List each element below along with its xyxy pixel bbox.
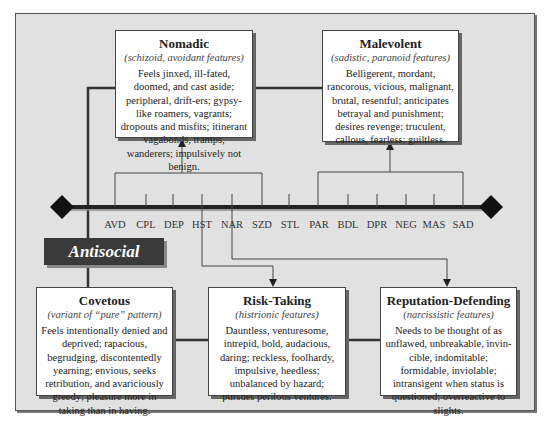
box-title: Malevolent [327,36,454,51]
risk-taking-box: Risk-Taking (histrionic features) Dauntl… [208,287,346,396]
timeline-label: SZD [252,219,272,230]
box-subtitle: (histrionic features) [213,308,341,321]
timeline-label: NAR [221,219,243,230]
box-subtitle: (schizoid, avoidant features) [120,51,248,64]
timeline-label: SAD [452,219,473,230]
timeline-label: MAS [423,219,446,230]
box-description: Dauntless, venturesome, intrepid, bold, … [213,324,341,404]
malevolent-box: Malevolent (sadistic, paranoid features)… [322,30,459,142]
timeline-label: AVD [104,219,125,230]
box-title: Reputation-Defending [385,293,512,308]
box-subtitle: (sadistic, paranoid features) [327,51,454,64]
box-description: Belligerent, mordant, rancorous, vicious… [327,67,454,147]
box-description: Feels intentionally denied and deprived;… [41,324,168,417]
timeline-label: DEP [164,219,184,230]
box-subtitle: (narcissistic features) [385,308,512,321]
nomadic-box: Nomadic (schizoid, avoidant features) Fe… [115,30,253,138]
timeline-label: STL [281,219,300,230]
box-description: Feels jinxed, ill-fated, doomed, and cas… [120,67,248,173]
antisocial-label: Antisocial [44,238,164,265]
box-title: Covetous [41,293,168,308]
box-subtitle: (variant of “pure” pattern) [41,308,168,321]
timeline-label: NEG [395,219,417,230]
timeline-label: BDL [338,219,359,230]
box-title: Risk-Taking [213,293,341,308]
covetous-box: Covetous (variant of “pure” pattern) Fee… [36,287,173,396]
reputation-defending-box: Reputation-Defending (narcissistic featu… [380,287,517,396]
box-description: Needs to be thought of as unflawed, unbr… [385,324,512,417]
timeline-label: HST [192,219,212,230]
timeline-label: PAR [309,219,328,230]
box-title: Nomadic [120,36,248,51]
timeline-label: CPL [136,219,155,230]
timeline-label: DPR [367,219,387,230]
